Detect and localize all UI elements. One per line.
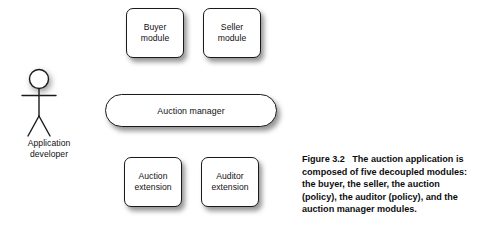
actor-label: Application developer bbox=[4, 138, 94, 160]
caption-line-2: composed of five decoupled modules: bbox=[302, 166, 478, 179]
module-box-auction-extension: Auction extension bbox=[124, 157, 182, 207]
module-box-seller-module: Seller module bbox=[203, 8, 261, 58]
module-box-buyer-module: Buyer module bbox=[126, 8, 184, 58]
architecture-diagram: Application developer Buyer module Selle… bbox=[0, 0, 295, 233]
figure-caption: Figure 3.2 The auction application is co… bbox=[302, 153, 478, 216]
caption-line-5: auction manager modules. bbox=[302, 203, 478, 216]
module-label-seller-module: Seller module bbox=[218, 22, 247, 44]
figure-container: Application developer Buyer module Selle… bbox=[0, 0, 481, 233]
module-label-auction-extension: Auction extension bbox=[134, 171, 171, 193]
module-label-auditor-extension: Auditor extension bbox=[211, 171, 248, 193]
module-box-auction-manager: Auction manager bbox=[105, 94, 277, 127]
module-label-auction-manager: Auction manager bbox=[157, 106, 224, 116]
caption-line-4: (policy), the auditor (policy), and the bbox=[302, 191, 478, 204]
actor-application-developer: Application developer bbox=[4, 62, 94, 170]
caption-line-1: Figure 3.2 The auction application is bbox=[302, 153, 478, 166]
caption-line-3: the buyer, the seller, the auction bbox=[302, 178, 478, 191]
module-box-auditor-extension: Auditor extension bbox=[201, 157, 259, 207]
module-label-buyer-module: Buyer module bbox=[141, 22, 170, 44]
